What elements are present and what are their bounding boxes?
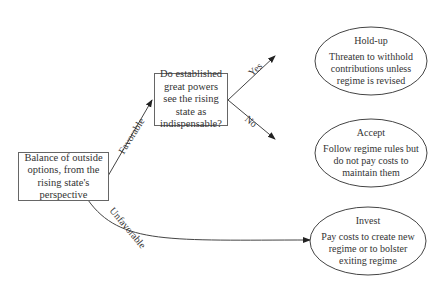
root-node: Balance of outside options, from the ris… <box>18 152 109 201</box>
question-node-text: Do established great powers see the risi… <box>157 68 225 131</box>
question-node: Do established great powers see the risi… <box>154 73 228 126</box>
outcome-accept: Accept Follow regime rules but do not pa… <box>318 127 424 179</box>
outcome-title: Hold-up <box>320 35 422 47</box>
outcome-holdup: Hold-up Threaten to withhold contributio… <box>320 35 422 87</box>
root-node-text: Balance of outside options, from the ris… <box>19 152 108 202</box>
outcome-title: Accept <box>318 127 424 139</box>
outcome-title: Invest <box>317 215 419 227</box>
outcome-text: Pay costs to create new regime or to bol… <box>317 231 419 267</box>
outcome-text: Follow regime rules but do not pay costs… <box>318 143 424 179</box>
outcome-invest: Invest Pay costs to create new regime or… <box>317 215 419 267</box>
outcome-text: Threaten to withhold contributions unles… <box>320 51 422 87</box>
